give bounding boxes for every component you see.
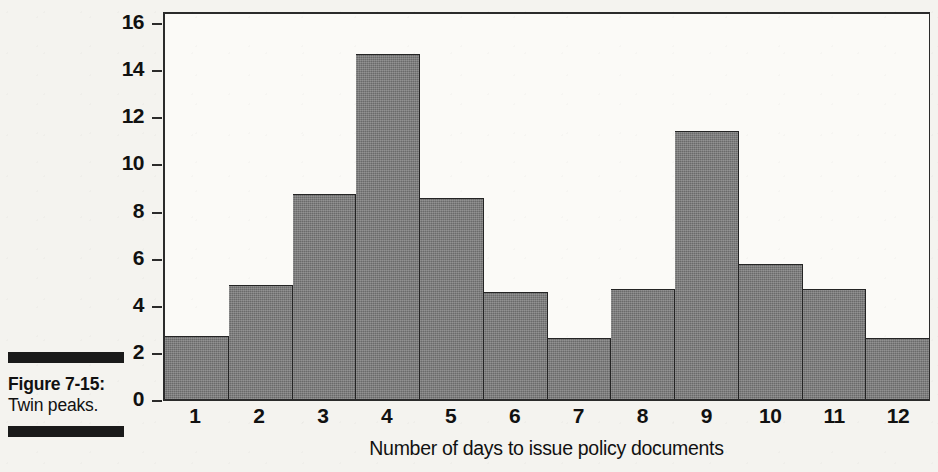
y-axis-tick	[152, 400, 162, 402]
caption-rule-bottom	[8, 426, 124, 437]
bar	[356, 54, 420, 399]
x-axis-label: 4	[355, 404, 419, 428]
y-axis-tick	[152, 306, 162, 308]
figure-caption-text: Twin peaks.	[8, 395, 128, 416]
x-axis-label: 10	[738, 404, 802, 428]
bar	[229, 285, 293, 399]
bar	[675, 131, 739, 399]
bar	[611, 289, 675, 399]
y-axis-tick	[152, 212, 162, 214]
x-axis-label: 3	[291, 404, 355, 428]
bar	[803, 289, 867, 399]
bar-series	[165, 14, 929, 399]
bar	[739, 264, 803, 399]
x-axis-label: 11	[802, 404, 866, 428]
bar	[420, 198, 484, 399]
x-axis-label: 8	[610, 404, 674, 428]
figure-caption-title: Figure 7-15:	[8, 374, 128, 395]
bar	[484, 292, 548, 399]
y-axis-label: 14	[84, 57, 144, 81]
y-axis-label: 12	[84, 104, 144, 128]
histogram-figure: 0246810121416 123456789101112 Number of …	[0, 0, 938, 472]
y-axis-label: 6	[84, 246, 144, 270]
y-axis-tick	[152, 164, 162, 166]
x-axis-label: 12	[866, 404, 930, 428]
y-axis-label: 10	[84, 151, 144, 175]
bar	[548, 338, 612, 399]
bar	[165, 336, 229, 399]
y-axis-tick	[152, 259, 162, 261]
y-axis-label: 8	[84, 199, 144, 223]
x-axis-label: 7	[547, 404, 611, 428]
x-axis-label: 2	[227, 404, 291, 428]
x-axis-label: 1	[163, 404, 227, 428]
x-axis-label: 5	[419, 404, 483, 428]
x-axis-title: Number of days to issue policy documents	[163, 437, 930, 460]
y-axis-label: 4	[84, 293, 144, 317]
x-axis-label: 9	[674, 404, 738, 428]
plot-area	[163, 12, 930, 401]
y-axis-tick	[152, 353, 162, 355]
bar	[293, 194, 357, 399]
y-axis-tick	[152, 117, 162, 119]
caption-rule-top	[8, 352, 124, 363]
figure-caption: Figure 7-15: Twin peaks.	[8, 352, 128, 437]
y-axis-tick	[152, 23, 162, 25]
x-axis-label: 6	[483, 404, 547, 428]
y-axis-tick	[152, 70, 162, 72]
bar	[866, 338, 929, 399]
y-axis-label: 16	[84, 10, 144, 34]
